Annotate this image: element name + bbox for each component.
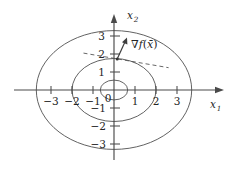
tangent-point-marker [116, 58, 119, 61]
x-tick-label-3: 3 [174, 95, 181, 107]
y-axis-label: x 2 [127, 9, 139, 24]
origin-label: 0 [105, 92, 112, 104]
gradient-label: ∇f(x̄) [131, 38, 158, 51]
x-tick-label--2: −2 [64, 95, 79, 107]
x-tick-label--3: −3 [43, 95, 58, 107]
x-tick-labels: −3 −2 −1 1 2 3 [43, 95, 180, 107]
y-axis-label-text: x [127, 9, 133, 21]
x-axis-arrowhead [215, 87, 224, 93]
level-curve-plot: −3 −2 −1 1 2 3 3 2 1 −1 −2 −3 0 x 1 x 2 [0, 0, 236, 170]
x-tick-label-2: 2 [153, 95, 160, 107]
y-tick-label-2: 2 [98, 48, 105, 60]
gradient-vector [116, 37, 128, 60]
y-axis-label-subscript: 2 [133, 15, 139, 24]
tangent-line [84, 53, 169, 68]
x-axis-label-subscript: 1 [217, 104, 222, 113]
gradient-close-paren: ) [153, 38, 157, 51]
gradient-vector-shaft [117, 41, 125, 59]
y-tick-label--2: −2 [91, 120, 106, 132]
y-tick-label-3: 3 [98, 30, 105, 42]
x-axis-label-text: x [210, 98, 216, 110]
x-tick-label-1: 1 [132, 95, 139, 107]
y-axis-arrowhead [111, 14, 117, 23]
y-tick-label--3: −3 [91, 138, 106, 150]
x-axis-label: x 1 [210, 98, 221, 113]
figure-container: −3 −2 −1 1 2 3 3 2 1 −1 −2 −3 0 x 1 x 2 [0, 0, 236, 170]
y-tick-label-1: 1 [98, 66, 105, 78]
